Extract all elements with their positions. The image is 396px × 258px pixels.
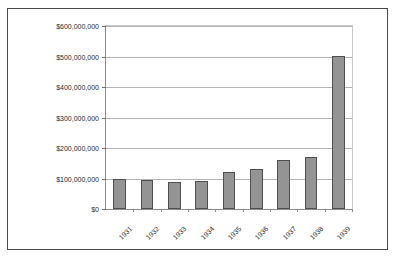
gridline xyxy=(106,87,352,88)
gridline xyxy=(106,118,352,119)
x-axis-label-text: 1939 xyxy=(336,225,352,241)
x-axis-tick xyxy=(243,209,244,212)
bar xyxy=(141,180,154,209)
bar xyxy=(332,56,345,209)
figure-border: $0$100,000,000$200,000,000$300,000,000$4… xyxy=(7,8,388,250)
x-axis-label: 1938 xyxy=(320,214,336,230)
y-axis-tick xyxy=(102,118,106,119)
y-axis-tick xyxy=(102,179,106,180)
y-axis-label: $100,000,000 xyxy=(56,175,99,182)
y-axis-tick xyxy=(102,26,106,27)
bar xyxy=(250,169,263,209)
x-axis-tick xyxy=(215,209,216,212)
x-axis-label: 1936 xyxy=(265,214,281,230)
x-axis-label-text: 1938 xyxy=(309,225,325,241)
x-axis-label-text: 1937 xyxy=(281,225,297,241)
y-axis-tick xyxy=(102,57,106,58)
x-axis-tick xyxy=(161,209,162,212)
x-axis-tick xyxy=(270,209,271,212)
x-axis-label: 1933 xyxy=(183,214,199,230)
plot-area: $0$100,000,000$200,000,000$300,000,000$4… xyxy=(105,25,353,210)
x-axis-label-text: 1936 xyxy=(254,225,270,241)
x-axis-tick xyxy=(133,209,134,212)
y-axis-label: $600,000,000 xyxy=(56,23,99,30)
y-axis-label: $400,000,000 xyxy=(56,84,99,91)
x-axis-label: 1934 xyxy=(210,214,226,230)
y-axis-tick xyxy=(102,87,106,88)
bar xyxy=(277,160,290,209)
y-axis-label: $0 xyxy=(91,206,99,213)
y-axis-tick xyxy=(102,209,106,210)
bar xyxy=(305,157,318,209)
x-axis-label: 1931 xyxy=(128,214,144,230)
bar xyxy=(168,182,181,209)
x-axis-label-text: 1934 xyxy=(199,225,215,241)
x-axis-tick xyxy=(188,209,189,212)
x-axis-label-text: 1932 xyxy=(145,225,161,241)
x-axis-label: 1935 xyxy=(238,214,254,230)
y-axis-tick xyxy=(102,148,106,149)
bar xyxy=(223,172,236,209)
x-axis-tick xyxy=(297,209,298,212)
gridline xyxy=(106,26,352,27)
bar xyxy=(195,181,208,209)
x-axis-label-text: 1933 xyxy=(172,225,188,241)
bar xyxy=(113,179,126,210)
bar-chart: $0$100,000,000$200,000,000$300,000,000$4… xyxy=(8,9,389,251)
x-axis-label-text: 1931 xyxy=(117,225,133,241)
x-axis-label: 1932 xyxy=(156,214,172,230)
y-axis-label: $300,000,000 xyxy=(56,114,99,121)
figure: $0$100,000,000$200,000,000$300,000,000$4… xyxy=(0,0,396,258)
y-axis-label: $200,000,000 xyxy=(56,145,99,152)
x-axis-label-text: 1935 xyxy=(227,225,243,241)
gridline xyxy=(106,148,352,149)
x-axis-tick xyxy=(325,209,326,212)
gridline xyxy=(106,57,352,58)
x-axis-label: 1937 xyxy=(292,214,308,230)
x-axis-label: 1939 xyxy=(347,214,363,230)
y-axis-label: $500,000,000 xyxy=(56,53,99,60)
x-axis-tick xyxy=(352,209,353,212)
